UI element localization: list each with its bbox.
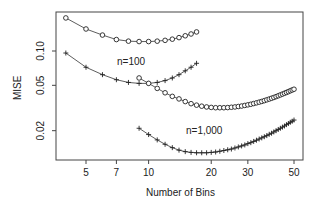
plus-marker — [146, 132, 151, 137]
plus-marker — [183, 149, 188, 154]
circle-marker — [146, 39, 151, 44]
circle-marker — [155, 86, 160, 91]
circle-marker — [292, 87, 297, 92]
x-tick-label: 50 — [288, 167, 300, 178]
plus-marker — [221, 148, 226, 153]
x-tick-label: 30 — [242, 167, 254, 178]
circle-marker — [194, 30, 199, 35]
circle-marker — [137, 39, 142, 44]
plus-marker — [137, 126, 142, 131]
circle-marker — [137, 76, 142, 81]
plus-marker — [259, 135, 264, 140]
x-tick-label: 20 — [206, 167, 218, 178]
plus-marker — [248, 140, 253, 145]
plus-marker — [236, 144, 241, 149]
plus-marker — [194, 150, 199, 155]
x-tick-label: 7 — [114, 167, 120, 178]
plus-marker — [229, 147, 234, 152]
circle-marker — [170, 94, 175, 99]
y-tick-label: 0.05 — [35, 75, 46, 95]
plus-marker — [225, 147, 230, 152]
circle-marker — [209, 105, 214, 110]
circle-marker — [126, 39, 131, 44]
series-line — [139, 78, 294, 108]
plot-area — [56, 12, 303, 160]
plus-marker — [257, 137, 262, 142]
plus-marker — [254, 138, 259, 143]
plus-marker — [170, 145, 175, 150]
annotation-n100: n=100 — [117, 56, 145, 67]
circle-marker — [100, 33, 105, 38]
circle-marker — [64, 16, 69, 21]
plus-marker — [239, 143, 244, 148]
y-tick-label: 0.02 — [35, 121, 46, 141]
plus-marker — [177, 72, 182, 77]
y-tick-label: 0.10 — [35, 41, 46, 61]
plus-marker — [114, 77, 119, 82]
plus-marker — [183, 68, 188, 73]
annotation-n1000: n=1,000 — [186, 125, 222, 136]
circle-marker — [177, 97, 182, 102]
plus-marker — [217, 149, 222, 154]
plus-marker — [269, 131, 274, 136]
plus-marker — [163, 142, 168, 147]
plus-marker — [170, 75, 175, 80]
circle-marker — [155, 39, 160, 44]
circle-marker — [189, 101, 194, 106]
x-axis-label: Number of Bins — [146, 187, 215, 198]
plus-marker — [204, 150, 209, 155]
circle-marker — [183, 33, 188, 38]
x-tick-label: 5 — [83, 167, 89, 178]
circle-marker — [204, 105, 209, 110]
circle-marker — [177, 35, 182, 40]
plus-marker — [126, 80, 131, 85]
plus-marker — [155, 137, 160, 142]
x-axis: 5710203050 — [83, 160, 300, 178]
plus-marker — [163, 78, 168, 83]
plus-marker — [199, 150, 204, 155]
plus-marker — [100, 72, 105, 77]
plus-marker — [251, 139, 256, 144]
y-axis-label: MISE — [12, 76, 23, 100]
circle-marker — [84, 27, 89, 32]
plus-marker — [232, 145, 237, 150]
plus-marker — [213, 150, 218, 155]
circle-marker — [189, 32, 194, 37]
circle-marker — [194, 103, 199, 108]
y-axis: 0.020.050.10 — [35, 41, 56, 141]
circle-marker — [146, 81, 151, 86]
circle-marker — [199, 104, 204, 109]
plus-marker — [137, 81, 142, 86]
circle-marker — [163, 38, 168, 43]
plus-marker — [209, 150, 214, 155]
circle-marker — [183, 99, 188, 104]
plus-marker — [189, 150, 194, 155]
plus-marker — [271, 129, 276, 134]
circle-marker — [170, 37, 175, 42]
plus-marker — [177, 148, 182, 153]
plus-marker — [63, 51, 68, 56]
mise-chart: 5710203050 0.020.050.10 — [0, 0, 318, 210]
plus-marker — [262, 134, 267, 139]
series-group — [63, 16, 296, 156]
plus-marker — [84, 65, 89, 70]
circle-marker — [163, 90, 168, 95]
circle-marker — [114, 37, 119, 42]
plus-marker — [155, 80, 160, 85]
x-tick-label: 10 — [143, 167, 155, 178]
